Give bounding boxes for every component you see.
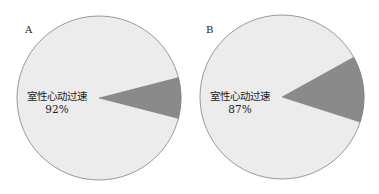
pie-a-slice-label: 室性心动过速 (27, 90, 88, 102)
pie-chart-b: B 室性心动过速 87% (200, 15, 364, 179)
panel-label-b: B (206, 24, 213, 35)
pie-chart-a: A 室性心动过速 92% (17, 16, 181, 180)
pie-b-slice-label: 室性心动过速 (210, 90, 271, 102)
pie-a-slice-value: 92% (45, 103, 68, 115)
pie-b-slice-value: 87% (228, 103, 251, 115)
figure: A 室性心动过速 92% B 室性心动过速 87% (0, 0, 379, 194)
pie-charts-svg: A 室性心动过速 92% B 室性心动过速 87% (0, 0, 379, 194)
panel-label-a: A (24, 24, 33, 35)
